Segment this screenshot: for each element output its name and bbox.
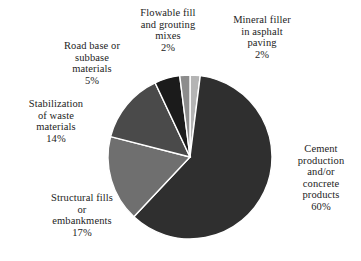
label-line: Stabilization <box>29 98 83 109</box>
label-percent: 17% <box>22 227 142 239</box>
label-line: subbase <box>75 52 109 63</box>
label-line: Cement <box>304 143 337 154</box>
label-line: of waste <box>38 110 74 121</box>
label-line: materials <box>36 121 75 132</box>
label-line: mixes <box>155 30 181 41</box>
label-percent: 2% <box>216 49 308 61</box>
label-line: paving <box>247 37 276 48</box>
slice-label-cement-production: Cement production and/or concrete produc… <box>283 143 359 213</box>
label-percent: 60% <box>283 201 359 213</box>
label-line: Mineral filler <box>233 14 291 25</box>
label-percent: 14% <box>2 133 110 145</box>
label-percent: 5% <box>40 75 144 87</box>
slice-label-stabilization-waste: Stabilization of waste materials 14% <box>2 98 110 144</box>
slice-label-structural-fills: Structural fills or embankments 17% <box>22 192 142 238</box>
label-line: and/or <box>307 166 334 177</box>
label-line: and grouting <box>141 19 196 30</box>
label-line: concrete <box>303 178 339 189</box>
label-line: Road base or <box>64 40 120 51</box>
label-line: materials <box>72 63 111 74</box>
label-line: in asphalt <box>241 26 283 37</box>
label-line: Flowable fill <box>140 7 195 18</box>
slice-label-mineral-filler: Mineral filler in asphalt paving 2% <box>216 14 308 60</box>
pie-chart-figure: Flowable fill and grouting mixes 2% Mine… <box>0 0 361 261</box>
label-line: production <box>298 155 345 166</box>
label-line: products <box>303 189 340 200</box>
label-line: or <box>78 204 87 215</box>
label-line: embankments <box>52 215 111 226</box>
slice-label-road-base: Road base or subbase materials 5% <box>40 40 144 86</box>
label-line: Structural fills <box>51 192 113 203</box>
